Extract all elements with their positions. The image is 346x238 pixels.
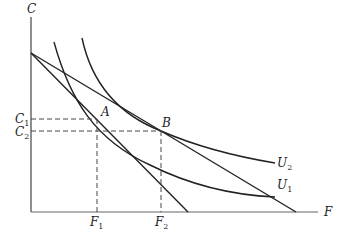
tick-f2-label: F2 <box>154 215 168 231</box>
y-axis-label: C <box>27 2 36 16</box>
diagram-canvas: C F A B U2 U1 C1 C2 F1 F2 <box>0 0 346 238</box>
x-axis-label: F <box>323 205 333 219</box>
curve-u2-label: U2 <box>277 156 292 172</box>
tick-f1-label: F1 <box>89 215 103 231</box>
point-b-label: B <box>161 116 171 130</box>
curve-u1-label: U1 <box>277 178 292 194</box>
point-a-label: A <box>100 105 110 119</box>
